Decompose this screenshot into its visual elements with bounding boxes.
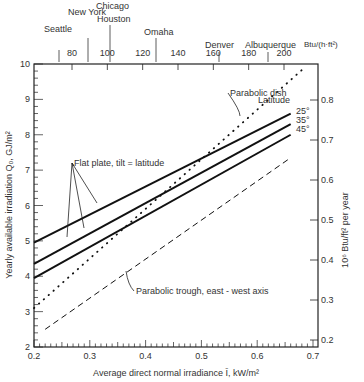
- chart-canvas: 0.20.30.40.50.60.723456789100.20.30.40.5…: [0, 0, 364, 382]
- latitude-label: Latitude: [258, 95, 290, 105]
- svg-text:0.4: 0.4: [321, 255, 334, 265]
- flat-plate-arrows: [67, 163, 97, 237]
- city-seattle: Seattle: [44, 24, 72, 34]
- series-line: [34, 135, 291, 278]
- svg-text:8: 8: [25, 130, 30, 140]
- svg-text:4: 4: [25, 271, 30, 281]
- svg-text:0.8: 0.8: [321, 95, 334, 105]
- latitude-45-label: 45°: [296, 124, 310, 134]
- svg-text:0.5: 0.5: [195, 351, 208, 361]
- svg-text:0.7: 0.7: [321, 135, 334, 145]
- svg-text:6: 6: [25, 201, 30, 211]
- city-chicago-label: Chicago: [96, 1, 129, 11]
- city-denver: Denver: [205, 40, 234, 50]
- trough-arrow: [126, 271, 134, 291]
- city-omaha: Omaha: [144, 27, 174, 37]
- svg-text:3: 3: [25, 307, 30, 317]
- svg-text:0.3: 0.3: [321, 295, 334, 305]
- series-line: [34, 124, 291, 264]
- svg-text:0.3: 0.3: [84, 351, 97, 361]
- plot-frame: [34, 64, 318, 347]
- svg-text:7: 7: [25, 165, 30, 175]
- y-axis-title: Yearly available irradiation Q₀, GJ/m²: [4, 131, 14, 278]
- svg-text:5: 5: [25, 236, 30, 246]
- x-axis-title: Average direct normal irradiance Ī, kW/m…: [93, 368, 259, 378]
- svg-text:10: 10: [20, 59, 30, 69]
- svg-text:140: 140: [170, 48, 185, 58]
- svg-text:100: 100: [100, 48, 115, 58]
- svg-text:0.6: 0.6: [251, 351, 264, 361]
- svg-text:0.5: 0.5: [321, 215, 334, 225]
- top-axis-unit: Btu/(h·ft²): [304, 40, 338, 49]
- svg-text:80: 80: [67, 48, 77, 58]
- svg-text:0.6: 0.6: [321, 175, 334, 185]
- svg-text:0.4: 0.4: [139, 351, 152, 361]
- y2-axis-title: 10⁶ Btu/ft² per year: [340, 192, 350, 268]
- series-line: [45, 158, 291, 330]
- series-line: [34, 114, 291, 243]
- annotation-trough: Parabolic trough, east - west axis: [136, 286, 269, 296]
- axis-ticks: [34, 64, 318, 347]
- svg-text:0.7: 0.7: [307, 351, 320, 361]
- svg-text:9: 9: [25, 94, 30, 104]
- svg-text:120: 120: [135, 48, 150, 58]
- annotation-flat-plate: Flat plate, tilt = latitude: [74, 158, 164, 168]
- city-albuquerque: Albuquerque: [245, 40, 296, 50]
- city-houston: Houston: [97, 14, 131, 24]
- svg-text:0.2: 0.2: [321, 335, 334, 345]
- svg-text:2: 2: [25, 342, 30, 352]
- svg-text:0.2: 0.2: [28, 351, 41, 361]
